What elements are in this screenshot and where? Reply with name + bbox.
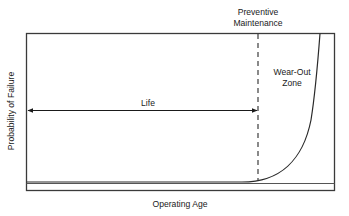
y-axis-label: Probability of Failure bbox=[6, 72, 16, 151]
x-axis-label: Operating Age bbox=[153, 199, 208, 209]
failure-curve bbox=[27, 34, 320, 183]
wearout-diagram: Preventive Maintenance Wear-Out Zone Lif… bbox=[0, 0, 349, 216]
preventive-label-line2: Maintenance bbox=[233, 18, 282, 28]
preventive-label-line1: Preventive bbox=[238, 7, 279, 17]
wearout-label-line1: Wear-Out bbox=[273, 67, 311, 77]
plot-frame bbox=[27, 34, 335, 191]
wearout-label-line2: Zone bbox=[282, 78, 302, 88]
life-label: Life bbox=[141, 98, 155, 108]
